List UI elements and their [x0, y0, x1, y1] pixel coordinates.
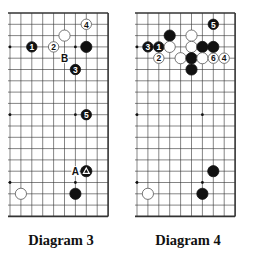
- star-point: [136, 46, 139, 49]
- svg-text:6: 6: [211, 53, 216, 63]
- black-stone: [197, 188, 208, 199]
- black-stone: [208, 41, 219, 52]
- white-stone: [175, 53, 186, 64]
- white-stone: [142, 188, 153, 199]
- svg-text:1: 1: [156, 42, 161, 52]
- star-point: [201, 181, 204, 184]
- svg-text:3: 3: [146, 42, 151, 52]
- black-stone-3: 3: [143, 42, 153, 52]
- white-stone: [186, 30, 197, 41]
- svg-text:4: 4: [222, 53, 227, 63]
- black-stone: [186, 53, 197, 64]
- black-stone: [197, 41, 208, 52]
- go-board-diagram-4: 531264: [0, 0, 253, 225]
- white-stone: [164, 41, 175, 52]
- star-point: [136, 113, 139, 116]
- star-point: [201, 113, 204, 116]
- svg-text:2: 2: [156, 53, 161, 63]
- black-stone-1: 1: [154, 42, 164, 52]
- star-point: [136, 181, 139, 184]
- diagram-3-caption: Diagram 3: [6, 232, 116, 249]
- black-stone-5: 5: [208, 19, 218, 29]
- white-stone: [197, 53, 208, 64]
- black-stone: [186, 64, 197, 75]
- svg-text:5: 5: [211, 20, 216, 30]
- diagram-4-caption: Diagram 4: [133, 232, 243, 249]
- black-stone: [208, 166, 219, 177]
- white-stone-2: 2: [154, 53, 164, 63]
- black-stone: [164, 30, 175, 41]
- white-stone-6: 6: [208, 53, 218, 63]
- white-stone-4: 4: [219, 53, 229, 63]
- white-stone: [186, 41, 197, 52]
